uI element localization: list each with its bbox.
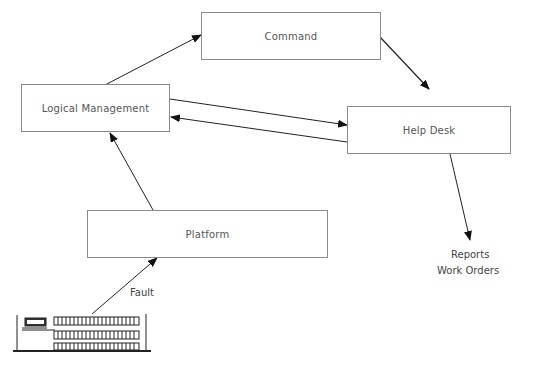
fault-label: Fault	[130, 287, 154, 298]
node-logical-management: Logical Management	[21, 84, 170, 132]
arrow-helpdesk-to-reports	[450, 154, 470, 240]
node-logical-management-label: Logical Management	[42, 103, 150, 114]
arrow-logical-to-command	[105, 35, 201, 85]
arrow-fault-to-platform	[92, 258, 157, 314]
arrow-command-to-helpdesk	[380, 37, 429, 89]
building-icon	[13, 314, 151, 351]
node-command: Command	[201, 12, 381, 60]
reports-label: Reports	[451, 249, 489, 260]
node-platform: Platform	[87, 210, 328, 258]
node-help-desk: Help Desk	[347, 106, 511, 154]
node-help-desk-label: Help Desk	[403, 125, 456, 136]
arrow-platform-to-logical	[110, 133, 153, 210]
work-orders-label: Work Orders	[437, 265, 499, 276]
node-command-label: Command	[265, 31, 318, 42]
node-platform-label: Platform	[186, 229, 230, 240]
